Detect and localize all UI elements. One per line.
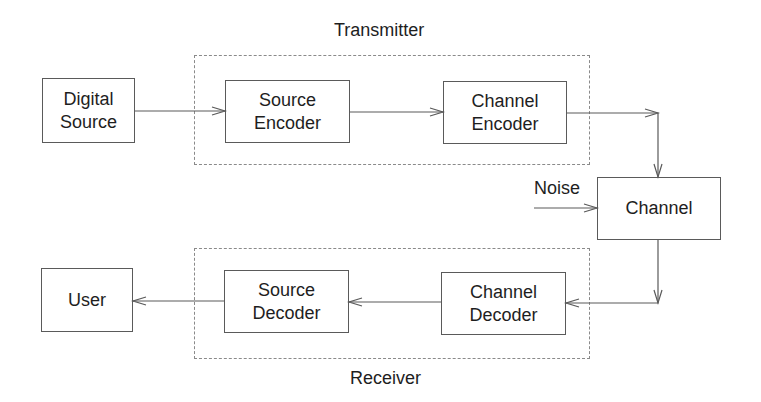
source-decoder-label: Source Decoder [252, 279, 320, 325]
source-encoder-label: Source Encoder [254, 89, 321, 135]
source-encoder-block: Source Encoder [225, 80, 350, 143]
channel-encoder-block: Channel Encoder [443, 81, 567, 144]
source-decoder-block: Source Decoder [224, 270, 349, 333]
user-block: User [41, 268, 133, 332]
communication-system-diagram: Transmitter Receiver [0, 0, 761, 402]
noise-label: Noise [534, 178, 580, 198]
channel-decoder-label: Channel Decoder [469, 281, 537, 327]
channel-encoder-label: Channel Encoder [471, 90, 538, 136]
channel-block: Channel [597, 177, 721, 240]
digital-source-label: Digital Source [60, 88, 117, 134]
channel-decoder-block: Channel Decoder [441, 272, 566, 335]
digital-source-block: Digital Source [42, 78, 135, 143]
user-label: User [68, 289, 106, 312]
channel-label: Channel [625, 197, 692, 220]
